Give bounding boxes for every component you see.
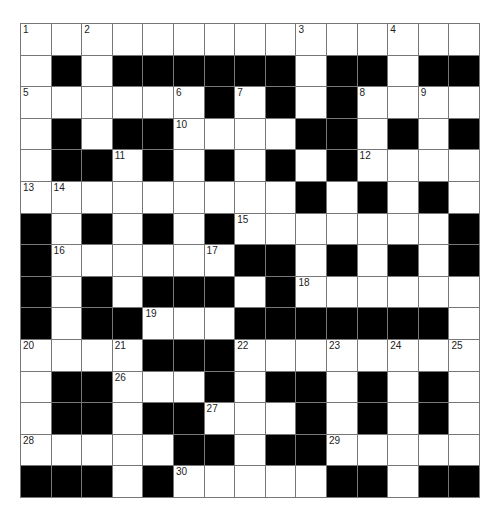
letter-cell[interactable]: [266, 466, 296, 497]
letter-cell[interactable]: [327, 372, 357, 403]
letter-cell[interactable]: [296, 56, 326, 87]
letter-cell[interactable]: 14: [52, 182, 82, 213]
letter-cell[interactable]: [235, 182, 265, 213]
letter-cell[interactable]: 30: [174, 466, 204, 497]
letter-cell[interactable]: [449, 308, 479, 339]
letter-cell[interactable]: 19: [143, 308, 173, 339]
letter-cell[interactable]: 28: [21, 435, 51, 466]
letter-cell[interactable]: 1: [21, 24, 51, 55]
letter-cell[interactable]: [449, 403, 479, 434]
letter-cell[interactable]: 25: [449, 340, 479, 371]
letter-cell[interactable]: [266, 24, 296, 55]
letter-cell[interactable]: [143, 245, 173, 276]
letter-cell[interactable]: [327, 214, 357, 245]
letter-cell[interactable]: [266, 119, 296, 150]
letter-cell[interactable]: 15: [235, 214, 265, 245]
letter-cell[interactable]: [143, 372, 173, 403]
letter-cell[interactable]: [235, 119, 265, 150]
letter-cell[interactable]: [358, 245, 388, 276]
letter-cell[interactable]: [235, 24, 265, 55]
letter-cell[interactable]: [266, 403, 296, 434]
letter-cell[interactable]: [113, 87, 143, 118]
letter-cell[interactable]: 12: [358, 150, 388, 181]
letter-cell[interactable]: [174, 214, 204, 245]
letter-cell[interactable]: 20: [21, 340, 51, 371]
letter-cell[interactable]: 9: [419, 87, 449, 118]
letter-cell[interactable]: [174, 182, 204, 213]
letter-cell[interactable]: [82, 340, 112, 371]
letter-cell[interactable]: [143, 87, 173, 118]
letter-cell[interactable]: [296, 245, 326, 276]
letter-cell[interactable]: 23: [327, 340, 357, 371]
letter-cell[interactable]: [419, 24, 449, 55]
letter-cell[interactable]: [205, 182, 235, 213]
letter-cell[interactable]: [205, 308, 235, 339]
letter-cell[interactable]: [358, 119, 388, 150]
letter-cell[interactable]: [388, 277, 418, 308]
letter-cell[interactable]: 5: [21, 87, 51, 118]
letter-cell[interactable]: 18: [296, 277, 326, 308]
letter-cell[interactable]: [449, 277, 479, 308]
letter-cell[interactable]: [296, 214, 326, 245]
letter-cell[interactable]: 17: [205, 245, 235, 276]
letter-cell[interactable]: [327, 277, 357, 308]
letter-cell[interactable]: [52, 214, 82, 245]
letter-cell[interactable]: [205, 466, 235, 497]
letter-cell[interactable]: [52, 308, 82, 339]
letter-cell[interactable]: [419, 119, 449, 150]
letter-cell[interactable]: [235, 466, 265, 497]
letter-cell[interactable]: [174, 150, 204, 181]
letter-cell[interactable]: [82, 245, 112, 276]
letter-cell[interactable]: [327, 403, 357, 434]
letter-cell[interactable]: [235, 277, 265, 308]
letter-cell[interactable]: [296, 87, 326, 118]
letter-cell[interactable]: [143, 24, 173, 55]
letter-cell[interactable]: [235, 372, 265, 403]
letter-cell[interactable]: [296, 340, 326, 371]
letter-cell[interactable]: [449, 182, 479, 213]
letter-cell[interactable]: [388, 150, 418, 181]
letter-cell[interactable]: [266, 214, 296, 245]
letter-cell[interactable]: [388, 87, 418, 118]
letter-cell[interactable]: 24: [388, 340, 418, 371]
letter-cell[interactable]: [327, 182, 357, 213]
letter-cell[interactable]: [296, 150, 326, 181]
letter-cell[interactable]: [113, 466, 143, 497]
letter-cell[interactable]: [235, 435, 265, 466]
letter-cell[interactable]: [143, 182, 173, 213]
letter-cell[interactable]: [82, 435, 112, 466]
letter-cell[interactable]: [388, 214, 418, 245]
letter-cell[interactable]: [235, 150, 265, 181]
letter-cell[interactable]: 13: [21, 182, 51, 213]
letter-cell[interactable]: [419, 277, 449, 308]
letter-cell[interactable]: [419, 435, 449, 466]
letter-cell[interactable]: 29: [327, 435, 357, 466]
letter-cell[interactable]: 11: [113, 150, 143, 181]
letter-cell[interactable]: [358, 435, 388, 466]
letter-cell[interactable]: [419, 245, 449, 276]
letter-cell[interactable]: [82, 56, 112, 87]
letter-cell[interactable]: [174, 372, 204, 403]
letter-cell[interactable]: 10: [174, 119, 204, 150]
letter-cell[interactable]: [82, 119, 112, 150]
letter-cell[interactable]: [174, 308, 204, 339]
letter-cell[interactable]: [358, 340, 388, 371]
letter-cell[interactable]: 27: [205, 403, 235, 434]
letter-cell[interactable]: [21, 150, 51, 181]
letter-cell[interactable]: [388, 403, 418, 434]
letter-cell[interactable]: [388, 56, 418, 87]
letter-cell[interactable]: [82, 182, 112, 213]
letter-cell[interactable]: 7: [235, 87, 265, 118]
letter-cell[interactable]: [266, 340, 296, 371]
letter-cell[interactable]: 26: [113, 372, 143, 403]
letter-cell[interactable]: 2: [82, 24, 112, 55]
letter-cell[interactable]: [21, 119, 51, 150]
letter-cell[interactable]: [388, 182, 418, 213]
letter-cell[interactable]: [113, 214, 143, 245]
letter-cell[interactable]: [174, 24, 204, 55]
letter-cell[interactable]: [174, 245, 204, 276]
letter-cell[interactable]: [388, 372, 418, 403]
letter-cell[interactable]: [449, 372, 479, 403]
letter-cell[interactable]: 22: [235, 340, 265, 371]
letter-cell[interactable]: 4: [388, 24, 418, 55]
